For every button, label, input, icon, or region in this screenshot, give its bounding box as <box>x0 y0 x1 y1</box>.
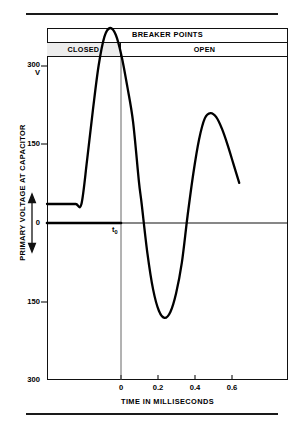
y-axis-unit-label: V <box>6 69 40 77</box>
primary-voltage-waveform <box>47 28 239 318</box>
x-tick-label-0: 0 <box>108 383 134 392</box>
t0-annotation-label: t0 <box>112 225 118 235</box>
x-tick-label-0p4: 0.4 <box>182 383 208 392</box>
chart-plot-area <box>0 0 304 424</box>
y-tick-label-150-negative: 150 <box>6 298 40 306</box>
y-axis-title: PRIMARY VOLTAGE AT CAPACITOR <box>18 103 27 283</box>
x-tick-label-0p6: 0.6 <box>219 383 245 392</box>
y-tick-label-300-positive: 300 V <box>6 61 40 77</box>
y-tick-label-300-negative: 300 <box>6 376 40 384</box>
x-axis-title: TIME IN MILLISECONDS <box>47 397 288 406</box>
x-axis-ticks <box>121 375 232 380</box>
figure-container: BREAKER POINTS CLOSED OPEN <box>0 0 304 424</box>
x-tick-label-0p2: 0.2 <box>145 383 171 392</box>
y-axis-ticks <box>41 66 47 302</box>
